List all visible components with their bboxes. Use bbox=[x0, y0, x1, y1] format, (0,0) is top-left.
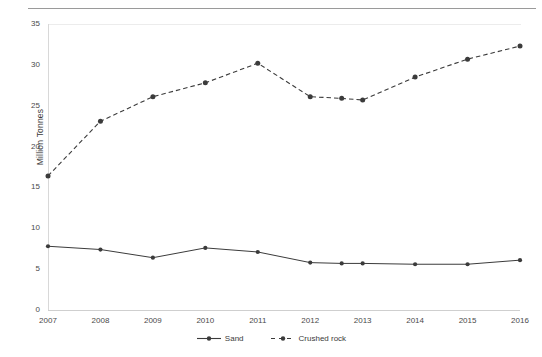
data-point bbox=[413, 262, 417, 266]
series-crushed-rock bbox=[46, 44, 523, 179]
legend-swatch-dashed bbox=[270, 334, 296, 343]
chart-legend: SandCrushed rock bbox=[0, 334, 542, 343]
legend-label: Sand bbox=[225, 334, 244, 343]
data-point bbox=[150, 94, 155, 99]
legend-label: Crushed rock bbox=[299, 334, 347, 343]
data-point bbox=[360, 97, 365, 102]
legend-swatch-solid bbox=[196, 334, 222, 343]
series-line bbox=[48, 46, 520, 176]
data-point bbox=[203, 246, 207, 250]
data-point bbox=[308, 261, 312, 265]
data-point bbox=[98, 119, 103, 124]
data-point bbox=[203, 80, 208, 85]
data-point bbox=[518, 258, 522, 262]
legend-item-sand[interactable]: Sand bbox=[196, 334, 244, 343]
data-point bbox=[465, 57, 470, 62]
data-point bbox=[255, 61, 260, 66]
data-point bbox=[98, 247, 102, 251]
data-point bbox=[413, 75, 418, 80]
data-point bbox=[308, 94, 313, 99]
data-point bbox=[46, 244, 50, 248]
series-layer bbox=[0, 0, 542, 357]
data-point bbox=[339, 96, 344, 101]
data-point bbox=[465, 262, 469, 266]
legend-item-crushed-rock[interactable]: Crushed rock bbox=[270, 334, 347, 343]
line-chart-figure: Million Tonnes 05101520253035 2007200820… bbox=[0, 0, 542, 357]
data-point bbox=[361, 261, 365, 265]
data-point bbox=[340, 261, 344, 265]
data-point bbox=[46, 173, 51, 178]
data-point bbox=[256, 250, 260, 254]
series-line bbox=[48, 246, 520, 264]
data-point bbox=[151, 256, 155, 260]
data-point bbox=[518, 44, 523, 49]
series-sand bbox=[46, 244, 522, 266]
